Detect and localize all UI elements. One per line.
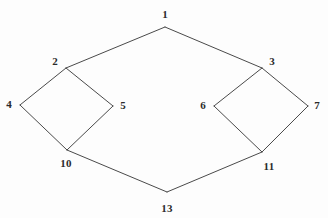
node-label-2: 2 <box>52 56 58 67</box>
node-label-13: 13 <box>161 203 172 214</box>
node-label-3: 3 <box>269 56 275 67</box>
graph-edge <box>167 152 262 192</box>
graph-edge <box>20 105 67 150</box>
graph-edge <box>262 106 308 152</box>
diagram-canvas: 1234567101113 <box>0 0 328 218</box>
graph-edge <box>214 106 262 152</box>
graph-edge <box>67 106 113 150</box>
node-label-10: 10 <box>60 158 71 169</box>
node-label-11: 11 <box>264 161 275 172</box>
graph-edge <box>20 68 66 105</box>
graph-edge <box>66 68 113 106</box>
graph-edge <box>262 68 308 106</box>
graph-edge <box>214 68 262 106</box>
graph-edge <box>66 27 165 68</box>
node-label-6: 6 <box>200 100 206 111</box>
graph-edge <box>165 27 262 68</box>
node-label-5: 5 <box>120 100 126 111</box>
graph-edge <box>67 150 167 192</box>
node-label-1: 1 <box>162 9 168 20</box>
graph-svg <box>0 0 328 218</box>
node-label-7: 7 <box>314 100 320 111</box>
node-label-4: 4 <box>6 99 12 110</box>
